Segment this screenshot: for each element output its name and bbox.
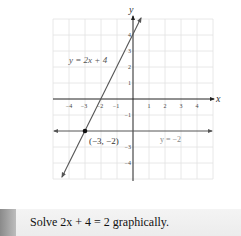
svg-text:−4: −4	[66, 103, 72, 109]
svg-text:3: 3	[180, 103, 183, 109]
line-label-y-equals-2x-plus-4: y = 2x + 4	[68, 55, 108, 65]
x-tick-labels: −4 −3 −2 −1 1 2 3 4	[66, 103, 199, 109]
x-axis-label: x	[215, 93, 221, 104]
svg-text:−1: −1	[113, 103, 119, 109]
svg-text:−1: −1	[125, 112, 131, 118]
intersection-point	[83, 129, 88, 134]
intersection-point-label: (−3, −2)	[89, 136, 119, 146]
svg-text:2: 2	[128, 64, 131, 70]
svg-text:1: 1	[128, 80, 131, 86]
svg-text:−2: −2	[97, 103, 103, 109]
line-label-y-equals-minus-2: y = −2	[160, 135, 181, 144]
problem-statement-text: Solve 2x + 4 = 2 graphically.	[30, 215, 169, 230]
svg-text:−3: −3	[125, 144, 131, 150]
svg-text:−4: −4	[125, 160, 131, 166]
svg-text:3: 3	[128, 48, 131, 54]
svg-text:4: 4	[196, 103, 199, 109]
problem-statement-bar: Solve 2x + 4 = 2 graphically.	[0, 209, 241, 236]
problem-marker-icon	[0, 209, 16, 236]
svg-text:4: 4	[128, 32, 131, 38]
svg-text:2: 2	[164, 103, 167, 109]
y-axis-label: y	[128, 4, 134, 15]
svg-text:1: 1	[148, 103, 151, 109]
coordinate-graph: y x −4 −3 −2 −1 1 2 3 4 4 3 2 1 −1 −3 −4…	[0, 0, 241, 200]
line-y-equals-2x-plus-4	[62, 18, 141, 177]
svg-text:−3: −3	[81, 103, 87, 109]
